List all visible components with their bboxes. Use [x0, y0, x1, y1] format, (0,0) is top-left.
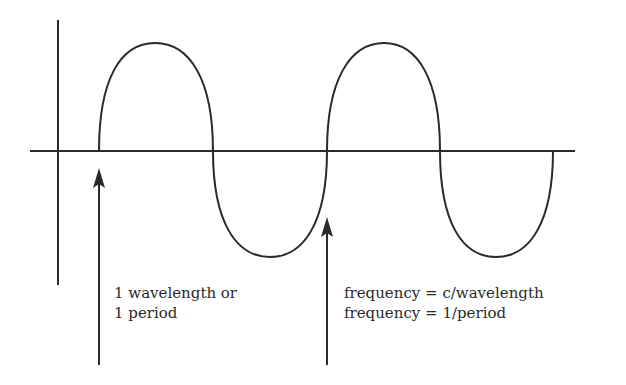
- frequency-formula-wavelength: frequency = c/wavelength: [344, 283, 544, 303]
- wavelength-label-line1: 1 wavelength or: [114, 283, 237, 303]
- sine-wave-diagram: [0, 0, 626, 385]
- frequency-formula-period: frequency = 1/period: [344, 303, 544, 323]
- wavelength-label: 1 wavelength or 1 period: [114, 283, 237, 323]
- frequency-label: frequency = c/wavelength frequency = 1/p…: [344, 283, 544, 323]
- wavelength-label-line2: 1 period: [114, 303, 237, 323]
- arrow-wavelength-start: [93, 168, 105, 365]
- arrow-wavelength-end: [321, 217, 333, 365]
